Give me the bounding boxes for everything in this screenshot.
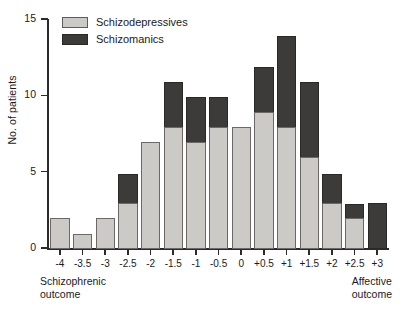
bar--1.5: [164, 82, 183, 248]
bar-segment-schizomanics-+2.5: [345, 204, 364, 219]
x-tick--1.5: [172, 249, 174, 255]
x-tick--2.5: [127, 249, 129, 255]
y-tick-label-10: 10: [8, 89, 36, 100]
x-tick--1: [195, 249, 197, 255]
legend-swatch-icon-schizodepressives: [62, 17, 88, 28]
plot-area: [49, 19, 389, 248]
x-tick--0.5: [218, 249, 220, 255]
bar-segment-schizomanics-+1.5: [300, 82, 319, 158]
legend-item-schizomanics: Schizomanics: [62, 31, 188, 48]
y-tick-label-5: 5: [8, 166, 36, 177]
legend-swatch-icon-schizomanics: [62, 34, 88, 45]
bar-segment-schizomanics--1: [186, 97, 205, 143]
right-axis-note-line2: outcome: [352, 288, 392, 301]
bar-0: [232, 127, 251, 248]
bar-segment-schizomanics-+2: [322, 174, 341, 205]
right-axis-note: Affective outcome: [352, 275, 392, 300]
left-axis-note-line1: Schizophrenic: [40, 275, 106, 288]
bar-+3: [368, 203, 387, 248]
bar-segment-schizodepressives--2: [141, 142, 160, 249]
chart-container: No. of patients 051015 -4-3.5-3-2.5-2-1.…: [0, 0, 408, 311]
x-tick-+0.5: [263, 249, 265, 255]
y-tick-10: [41, 95, 48, 97]
bar--4: [50, 218, 69, 248]
bar-+1.5: [300, 82, 319, 248]
bar-+0.5: [254, 67, 273, 248]
bar-+1: [277, 36, 296, 248]
chart-legend: Schizodepressives Schizomanics: [62, 14, 188, 48]
x-tick-+1.5: [308, 249, 310, 255]
x-tick-0: [240, 249, 242, 255]
bar-segment-schizomanics--1.5: [164, 82, 183, 128]
bar-segment-schizomanics-+3: [368, 203, 387, 249]
x-tick-+1: [286, 249, 288, 255]
bar-segment-schizomanics--0.5: [209, 97, 228, 128]
y-tick-15: [41, 18, 48, 20]
x-tick--2: [150, 249, 152, 255]
bar--1: [186, 97, 205, 248]
bar--0.5: [209, 97, 228, 248]
x-tick-+2: [331, 249, 333, 255]
y-tick-label-0: 0: [8, 242, 36, 253]
x-tick--4: [59, 249, 61, 255]
bar-segment-schizodepressives--4: [50, 218, 69, 249]
y-axis-title: No. of patients: [6, 47, 18, 173]
bar-segment-schizodepressives--1.5: [164, 127, 183, 249]
bar--2.5: [118, 174, 137, 248]
x-tick--3: [104, 249, 106, 255]
bar-segment-schizomanics--2.5: [118, 174, 137, 205]
y-tick-label-15: 15: [8, 13, 36, 24]
bar-segment-schizodepressives--1: [186, 142, 205, 249]
bar-+2: [322, 174, 341, 248]
bar-segment-schizodepressives-+2.5: [345, 218, 364, 249]
bar--3.5: [73, 234, 92, 248]
bar-+2.5: [345, 204, 364, 248]
x-tick-+2.5: [354, 249, 356, 255]
bar-segment-schizodepressives-+0.5: [254, 112, 273, 249]
bar-segment-schizodepressives--3.5: [73, 234, 92, 249]
x-tick--3.5: [82, 249, 84, 255]
bar--3: [96, 218, 115, 248]
x-tick-+3: [376, 249, 378, 255]
bar-segment-schizomanics-+0.5: [254, 67, 273, 113]
legend-label-schizomanics: Schizomanics: [96, 34, 164, 45]
bar-segment-schizodepressives-+1: [277, 127, 296, 249]
y-tick-5: [41, 171, 48, 173]
left-axis-note-line2: outcome: [40, 288, 106, 301]
bar-segment-schizodepressives-+2: [322, 203, 341, 249]
legend-item-schizodepressives: Schizodepressives: [62, 14, 188, 31]
bar-segment-schizomanics-+1: [277, 36, 296, 128]
bar-segment-schizodepressives--3: [96, 218, 115, 249]
bar--2: [141, 142, 160, 248]
bar-segment-schizodepressives--0.5: [209, 127, 228, 249]
bar-segment-schizodepressives-+1.5: [300, 157, 319, 249]
left-axis-note: Schizophrenic outcome: [40, 275, 106, 300]
bar-segment-schizodepressives--2.5: [118, 203, 137, 249]
legend-label-schizodepressives: Schizodepressives: [96, 17, 188, 28]
x-tick-label-+3: +3: [361, 259, 393, 269]
right-axis-note-line1: Affective: [352, 275, 392, 288]
bar-segment-schizodepressives-0: [232, 127, 251, 249]
y-tick-0: [41, 247, 48, 249]
